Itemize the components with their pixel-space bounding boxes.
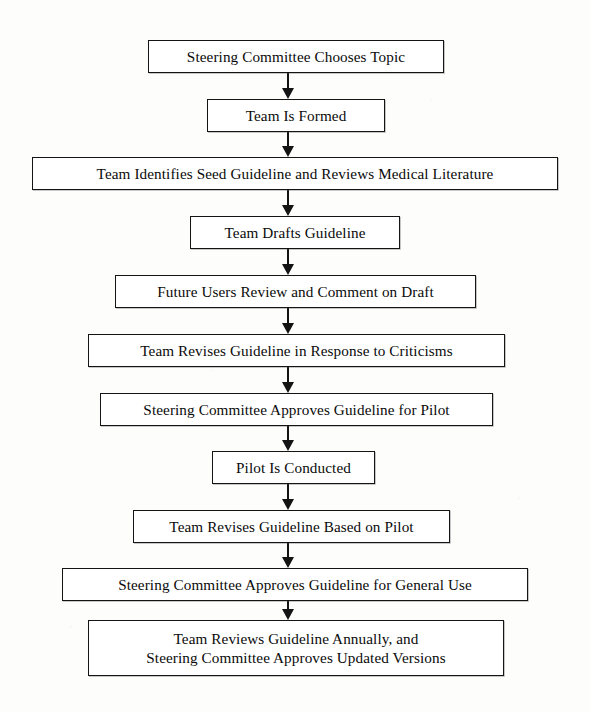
arrow-stem — [287, 543, 289, 558]
flow-node-n2: Team Is Formed — [207, 99, 385, 132]
flow-arrow — [281, 73, 295, 99]
flow-node-n10: Steering Committee Approves Guideline fo… — [62, 568, 528, 601]
flow-node-n5: Future Users Review and Comment on Draft — [115, 275, 476, 308]
arrow-stem — [287, 367, 289, 383]
arrow-stem — [287, 132, 289, 147]
flow-arrow — [281, 484, 295, 510]
down-arrow-icon — [282, 264, 294, 275]
down-arrow-icon — [282, 499, 294, 510]
flow-arrow — [281, 601, 295, 620]
down-arrow-icon — [282, 323, 294, 334]
flowchart-diagram: Steering Committee Chooses TopicTeam Is … — [0, 0, 590, 712]
arrow-stem — [287, 190, 289, 206]
flow-node-n7: Steering Committee Approves Guideline fo… — [100, 393, 493, 426]
flow-arrow — [281, 367, 295, 393]
down-arrow-icon — [282, 440, 294, 451]
flow-node-n11: Team Reviews Guideline Annually, and Ste… — [88, 620, 504, 676]
flow-arrow — [281, 249, 295, 275]
down-arrow-icon — [282, 609, 294, 620]
down-arrow-icon — [282, 146, 294, 157]
arrow-stem — [287, 484, 289, 500]
flow-arrow — [281, 308, 295, 334]
flow-arrow — [281, 132, 295, 157]
flow-arrow — [281, 426, 295, 451]
flow-node-n9: Team Revises Guideline Based on Pilot — [133, 510, 450, 543]
arrow-stem — [287, 601, 289, 610]
flow-arrow — [281, 190, 295, 216]
arrow-stem — [287, 249, 289, 265]
arrow-stem — [287, 308, 289, 324]
flow-arrow — [281, 543, 295, 568]
flow-node-n6: Team Revises Guideline in Response to Cr… — [88, 334, 505, 367]
arrow-stem — [287, 426, 289, 441]
flow-node-n3: Team Identifies Seed Guideline and Revie… — [32, 157, 558, 190]
down-arrow-icon — [282, 557, 294, 568]
arrow-stem — [287, 73, 289, 89]
flow-node-n4: Team Drafts Guideline — [190, 216, 400, 249]
flow-node-n1: Steering Committee Chooses Topic — [148, 40, 444, 73]
down-arrow-icon — [282, 88, 294, 99]
down-arrow-icon — [282, 382, 294, 393]
down-arrow-icon — [282, 205, 294, 216]
flow-node-n8: Pilot Is Conducted — [212, 451, 375, 484]
